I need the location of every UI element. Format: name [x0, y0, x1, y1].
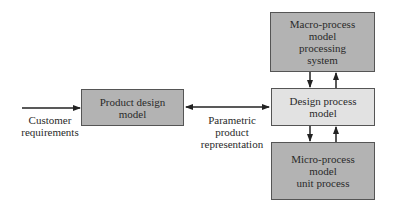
node-design-process-model: Design process model	[271, 88, 375, 126]
node-text: model	[119, 108, 147, 120]
node-text: Macro-process	[290, 18, 355, 30]
label-text: requirements	[14, 126, 86, 138]
node-text: Product design	[100, 96, 166, 108]
label-customer-requirements: Customer requirements	[14, 114, 86, 138]
node-text: model	[309, 30, 337, 42]
node-text: processing	[299, 42, 346, 54]
label-text: Parametric	[190, 114, 274, 126]
label-text: product	[190, 126, 274, 138]
node-text: Micro-process	[291, 153, 355, 165]
node-macro-process-model: Macro-process model processing system	[270, 12, 375, 72]
node-text: Design process	[290, 95, 357, 107]
node-text: model	[309, 107, 337, 119]
label-text: Customer	[14, 114, 86, 126]
label-text: representation	[190, 138, 274, 150]
node-text: unit process	[297, 177, 350, 189]
node-micro-process-model: Micro-process model unit process	[271, 142, 375, 200]
node-text: system	[307, 54, 338, 66]
node-text: model	[309, 165, 337, 177]
label-parametric-product-representation: Parametric product representation	[190, 114, 274, 150]
node-product-design-model: Product design model	[81, 89, 184, 126]
